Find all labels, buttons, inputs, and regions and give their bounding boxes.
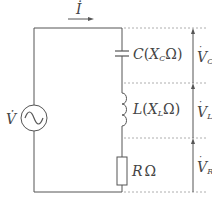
inductor-icon [122,93,127,127]
ac-source-icon [21,105,47,131]
resistor-label: RΩ [131,163,156,179]
current-label: İ [75,0,82,17]
capacitor-label: C(XCΩ) [133,46,182,63]
svg-text:·: · [199,151,202,162]
wires [34,28,122,192]
resistor-icon [117,157,127,185]
inductor-label: L(XLΩ) [132,101,180,118]
svg-text:·: · [199,41,202,52]
circuit-diagram: İ V̇ C(XCΩ) L(XLΩ) RΩ VC [0,0,212,207]
capacitor-icon [115,51,129,56]
current-arrow [68,17,94,21]
source-voltage-label: V̇ [6,110,18,127]
svg-text:·: · [199,96,202,107]
